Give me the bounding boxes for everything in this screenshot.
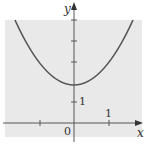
y-axis-label: y: [64, 3, 71, 15]
chart: y x 0 1 1: [0, 0, 146, 148]
x-axis-label: x: [137, 127, 144, 139]
x-tick-label-1: 1: [105, 108, 112, 119]
x-tick-label-0: 0: [64, 126, 71, 137]
y-axis-arrow-icon: [71, 2, 77, 10]
y-tick-label-1: 1: [79, 96, 86, 107]
plot-area: [0, 0, 146, 148]
